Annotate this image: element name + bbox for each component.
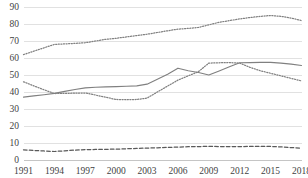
x-axis-tick-label: 2009: [199, 166, 218, 176]
y-axis-tick-label: 20: [10, 121, 20, 131]
gridlines-group: [24, 7, 302, 160]
y-axis-tick-label: 80: [10, 19, 20, 29]
x-axis-tick-label: 2000: [107, 166, 126, 176]
y-axis-tick-label: 90: [10, 2, 20, 12]
y-axis-tick-label: 50: [10, 70, 20, 80]
x-axis-tick-label: 2018: [292, 166, 308, 176]
data-series-group: [24, 16, 302, 152]
y-axis-tick-label: 40: [10, 87, 20, 97]
y-axis-tick-label: 70: [10, 36, 20, 46]
series-middle-dotted: [24, 63, 302, 100]
y-axis-tick-labels: 0102030405060708090: [10, 2, 20, 165]
y-axis-tick-label: 10: [10, 138, 20, 148]
y-axis-tick-label: 0: [14, 155, 19, 165]
line-chart: 0102030405060708090 19911994199720002003…: [0, 0, 308, 178]
x-axis-tick-label: 2006: [168, 166, 187, 176]
y-axis-tick-label: 30: [10, 104, 20, 114]
series-top-dotted: [24, 16, 302, 55]
x-axis-tick-label: 1991: [14, 166, 33, 176]
chart-plot-area: 0102030405060708090 19911994199720002003…: [0, 0, 308, 178]
x-axis-tick-label: 1994: [45, 166, 64, 176]
x-axis-tick-label: 2003: [138, 166, 157, 176]
x-axis-tick-label: 1997: [76, 166, 95, 176]
x-axis-tick-label: 2012: [230, 166, 249, 176]
x-axis-tick-labels: 1991199419972000200320062009201220152018: [14, 166, 308, 176]
x-axis-tick-label: 2015: [261, 166, 280, 176]
series-bottom-dashed: [24, 146, 302, 151]
y-axis-tick-label: 60: [10, 53, 20, 63]
